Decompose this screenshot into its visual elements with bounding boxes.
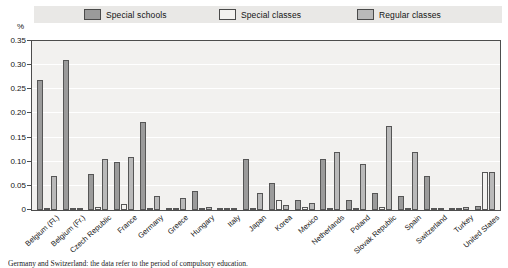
bar (206, 207, 212, 210)
bar-group (343, 41, 369, 210)
bar (63, 60, 69, 210)
legend-swatch-special-classes (219, 9, 236, 20)
legend-label-regular-classes: Regular classes (379, 10, 441, 20)
bar (231, 208, 237, 210)
legend-label-special-classes: Special classes (241, 10, 301, 20)
chart-page: Special schools Special classes Regular … (0, 0, 508, 268)
y-axis-tick-label: 0 (22, 205, 26, 214)
bar (77, 208, 83, 210)
bar (51, 176, 57, 210)
y-axis: 0.350.300.250.200.150.100.050 (0, 33, 31, 218)
bar (283, 205, 289, 210)
bar-group (266, 41, 292, 210)
bar-group (292, 41, 318, 210)
bar-group (472, 41, 498, 210)
y-axis-tick-label: 0.20 (10, 108, 26, 117)
legend-item-regular-classes: Regular classes (357, 9, 441, 20)
legend-swatch-regular-classes (357, 9, 374, 20)
y-axis-tick-label: 0.25 (10, 84, 26, 93)
bar (243, 159, 249, 210)
bar (463, 207, 469, 210)
legend-item-special-schools: Special schools (84, 9, 167, 20)
chart-legend: Special schools Special classes Regular … (34, 6, 502, 23)
y-axis-tick-label: 0.05 (10, 180, 26, 189)
bar (44, 208, 50, 210)
bar (257, 193, 263, 210)
bar-group (395, 41, 421, 210)
y-axis-tick-label: 0.30 (10, 60, 26, 69)
bar-group (189, 41, 215, 210)
x-axis-labels: Belgium (Fl.)Belgium (Fr.)Czech Republic… (31, 213, 501, 263)
bar-group (86, 41, 112, 210)
bar-group (369, 41, 395, 210)
legend-swatch-special-schools (84, 9, 101, 20)
bar (140, 122, 146, 210)
bar-group (34, 41, 60, 210)
bar-group (240, 41, 266, 210)
y-axis-tick-label: 0.35 (10, 36, 26, 45)
bar-group (447, 41, 473, 210)
bar (309, 203, 315, 210)
bar-group (163, 41, 189, 210)
legend-label-special-schools: Special schools (106, 10, 167, 20)
y-axis-unit-label: % (17, 22, 24, 31)
bar (37, 80, 43, 210)
bar-group (60, 41, 86, 210)
chart-footnote: Germany and Switzerland: the data refer … (8, 259, 500, 268)
bar-group (111, 41, 137, 210)
legend-item-special-classes: Special classes (219, 9, 301, 20)
y-axis-tick-label: 0.10 (10, 156, 26, 165)
bar-group (318, 41, 344, 210)
bar (438, 208, 444, 210)
bar (386, 126, 392, 211)
bar-group (214, 41, 240, 210)
y-axis-tick-label: 0.15 (10, 132, 26, 141)
